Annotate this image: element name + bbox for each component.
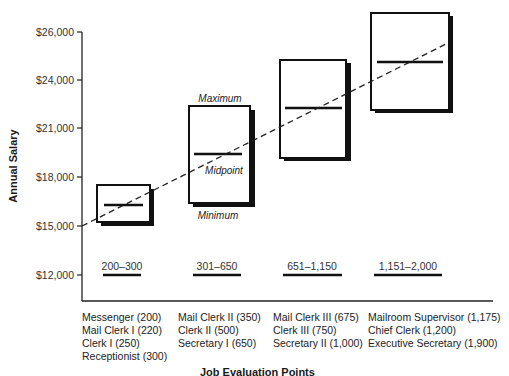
job-item: Mail Clerk I (220) [82, 324, 167, 337]
job-item: Mail Clerk III (675) [273, 311, 363, 324]
y-tick-label: $15,000 [36, 220, 74, 232]
job-item: Clerk I (250) [82, 337, 167, 350]
job-item: Clerk II (500) [178, 324, 261, 337]
job-list-grade-1: Messenger (200) Mail Clerk I (220) Clerk… [82, 311, 167, 363]
annotation-maximum: Maximum [198, 93, 241, 104]
point-range-label: 301–650 [197, 260, 238, 272]
annotation-midpoint: Midpoint [205, 165, 244, 176]
y-tick-label: $18,000 [36, 171, 74, 183]
y-axis-label: Annual Salary [7, 128, 19, 202]
point-range-labels: 200–300 301–650 651–1,150 1,151–2,000 [102, 260, 442, 275]
job-item: Receptionist (300) [82, 350, 167, 363]
salary-range-box-grade-3 [280, 60, 351, 161]
point-range-label: 651–1,150 [287, 260, 337, 272]
salary-range-box-grade-1 [97, 185, 154, 226]
job-list-grade-3: Mail Clerk III (675) Clerk III (750) Sec… [273, 311, 363, 350]
y-ticks: $26,000 $24,000 $21,000 $18,000 $15,000 … [36, 26, 82, 281]
job-item: Mail Clerk II (350) [178, 311, 261, 324]
annotation-minimum: Minimum [198, 210, 239, 221]
job-list-grade-2: Mail Clerk II (350) Clerk II (500) Secre… [178, 311, 261, 350]
y-tick-label: $26,000 [36, 26, 74, 38]
y-tick-label: $24,000 [36, 74, 74, 86]
point-range-label: 200–300 [102, 260, 143, 272]
job-item: Clerk III (750) [273, 324, 363, 337]
salary-range-box-grade-2 [189, 106, 255, 207]
job-item: Secretary I (650) [178, 337, 261, 350]
job-item: Messenger (200) [82, 311, 167, 324]
job-list-grade-4: Mailroom Supervisor (1,175) Chief Clerk … [368, 311, 500, 350]
salary-range-box-grade-4 [371, 13, 453, 113]
job-item: Executive Secretary (1,900) [368, 337, 500, 350]
job-item: Secretary II (1,000) [273, 337, 363, 350]
y-tick-label: $21,000 [36, 122, 74, 134]
job-item: Chief Clerk (1,200) [368, 324, 500, 337]
x-axis-label: Job Evaluation Points [200, 366, 315, 376]
point-range-label: 1,151–2,000 [379, 260, 438, 272]
job-item: Mailroom Supervisor (1,175) [368, 311, 500, 324]
y-tick-label: $12,000 [36, 269, 74, 281]
